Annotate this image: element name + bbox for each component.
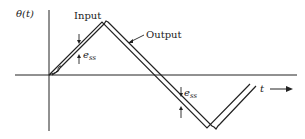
- ess-label-1: ess: [83, 49, 97, 62]
- y-axis-label: θ(t): [16, 8, 34, 19]
- output-label: Output: [146, 29, 182, 40]
- time-arrowhead: [286, 86, 293, 92]
- ess-label-2: ess: [184, 87, 198, 100]
- ess-arrowhead-lower: [77, 54, 81, 58]
- ramp-response-diagram: θ(t) Input Output ess ess t: [0, 0, 305, 139]
- input-label: Input: [74, 10, 101, 21]
- ess-arrowhead-lower-2: [179, 106, 183, 110]
- x-axis-label: t: [260, 83, 265, 94]
- output-pointer-arrowhead: [128, 39, 133, 43]
